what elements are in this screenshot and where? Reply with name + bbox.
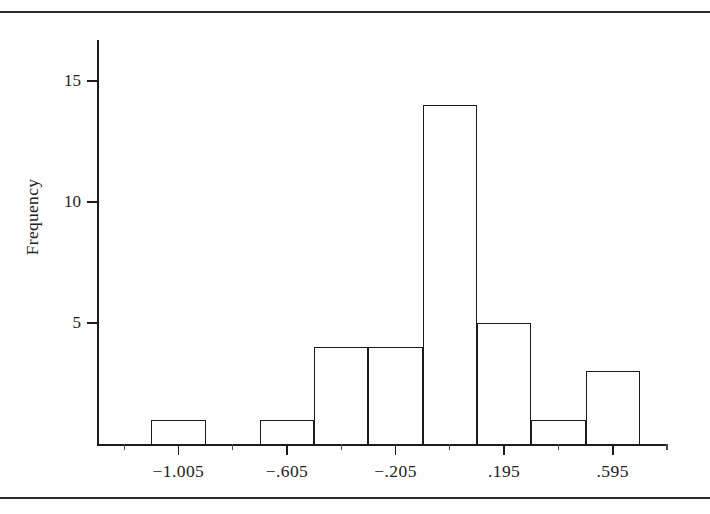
histogram-bar-bin-1	[151, 420, 205, 445]
histogram-bars	[0, 13, 710, 497]
histogram-bar-bin-6	[423, 105, 477, 445]
histogram-bar-bin-9	[586, 371, 640, 445]
histogram-bar-bin-3	[260, 420, 314, 445]
histogram-plot-area: Frequency 51015 −1.005−.605−.205.195.595	[0, 13, 710, 497]
histogram-bar-bin-5	[368, 347, 422, 445]
histogram-bar-bin-7	[477, 323, 531, 445]
page-rule-bottom	[0, 497, 710, 499]
figure-page: Frequency 51015 −1.005−.605−.205.195.595	[0, 0, 710, 514]
histogram-bar-bin-8	[531, 420, 585, 445]
histogram-bar-bin-4	[314, 347, 368, 445]
